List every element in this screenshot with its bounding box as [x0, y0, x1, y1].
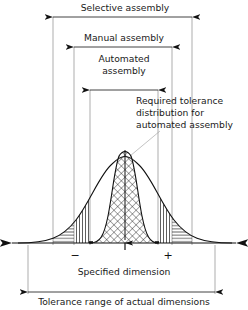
- minus-sign: −: [70, 249, 79, 262]
- band-selective-left: [53, 150, 74, 245]
- callout-leader-line: [130, 131, 160, 156]
- callout-line-2: distribution for: [136, 107, 204, 118]
- band-selective-right: [172, 150, 192, 245]
- dimension-line-tolerance-range: Tolerance range of actual dimensions: [28, 292, 215, 307]
- selective-assembly-label: Selective assembly: [81, 2, 170, 13]
- narrow-distribution-fill: [88, 148, 160, 245]
- band-automated: [88, 148, 160, 245]
- automated-assembly-label-line2: assembly: [102, 65, 146, 76]
- dimension-line-automated: Automated assembly: [90, 53, 158, 90]
- automated-assembly-label-line1: Automated: [99, 53, 150, 64]
- band-manual-left: [74, 150, 90, 245]
- plus-sign: +: [163, 249, 172, 262]
- dimension-line-manual: Manual assembly: [74, 32, 172, 47]
- manual-assembly-label: Manual assembly: [84, 32, 164, 43]
- callout-line-1: Required tolerance: [136, 95, 224, 106]
- callout-line-3: automated assembly: [136, 119, 233, 130]
- assembly-tolerance-figure: Selective assembly Manual assembly Autom…: [0, 0, 248, 310]
- technical-diagram: Selective assembly Manual assembly Autom…: [0, 0, 248, 310]
- specified-dimension-label: Specified dimension: [78, 266, 171, 277]
- callout-required-tolerance: Required tolerance distribution for auto…: [130, 95, 233, 156]
- tolerance-range-label: Tolerance range of actual dimensions: [37, 296, 210, 307]
- dimension-line-selective: Selective assembly: [53, 2, 192, 17]
